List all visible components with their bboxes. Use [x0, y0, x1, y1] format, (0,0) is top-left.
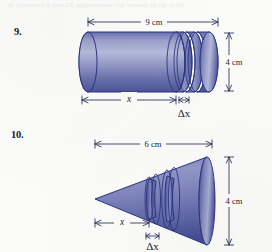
label-cylinder-delta-x: Δx — [178, 107, 191, 119]
figure-problem-10: 10. — [0, 126, 272, 252]
length-dimension-9cm: 9 cm — [88, 16, 218, 28]
figure-problem-9: 9. — [0, 0, 272, 126]
label-cylinder-length: 9 cm — [146, 17, 163, 27]
cone-base-endcap — [199, 157, 215, 245]
label-cone-delta-x: Δx — [146, 240, 159, 252]
label-cylinder-diameter: 4 cm — [226, 57, 243, 67]
label-cone-diameter: 4 cm — [226, 196, 243, 206]
deltax-dimension-cone: Δx — [146, 233, 159, 252]
problem-number-9: 9. — [14, 26, 21, 37]
length-dimension-6cm: 6 cm — [95, 138, 212, 150]
cylinder-right-endcap — [200, 32, 218, 92]
label-cone-length: 6 cm — [145, 139, 162, 149]
label-cylinder-x: x — [126, 94, 132, 104]
x-dimension-cylinder: x — [82, 92, 176, 105]
cylinder-left-endcap — [79, 32, 97, 92]
cone-diagram: 6 cm 4 cm — [0, 126, 272, 252]
diameter-dimension-4cm: 4 cm — [219, 33, 249, 91]
deltax-dimension-cylinder: Δx — [178, 97, 191, 120]
problem-number-10: 10. — [11, 129, 24, 140]
cylinder-diagram: 9 cm — [0, 0, 272, 126]
label-cone-x: x — [119, 217, 125, 227]
diameter-dimension-cone-4cm: 4 cm — [219, 157, 249, 245]
